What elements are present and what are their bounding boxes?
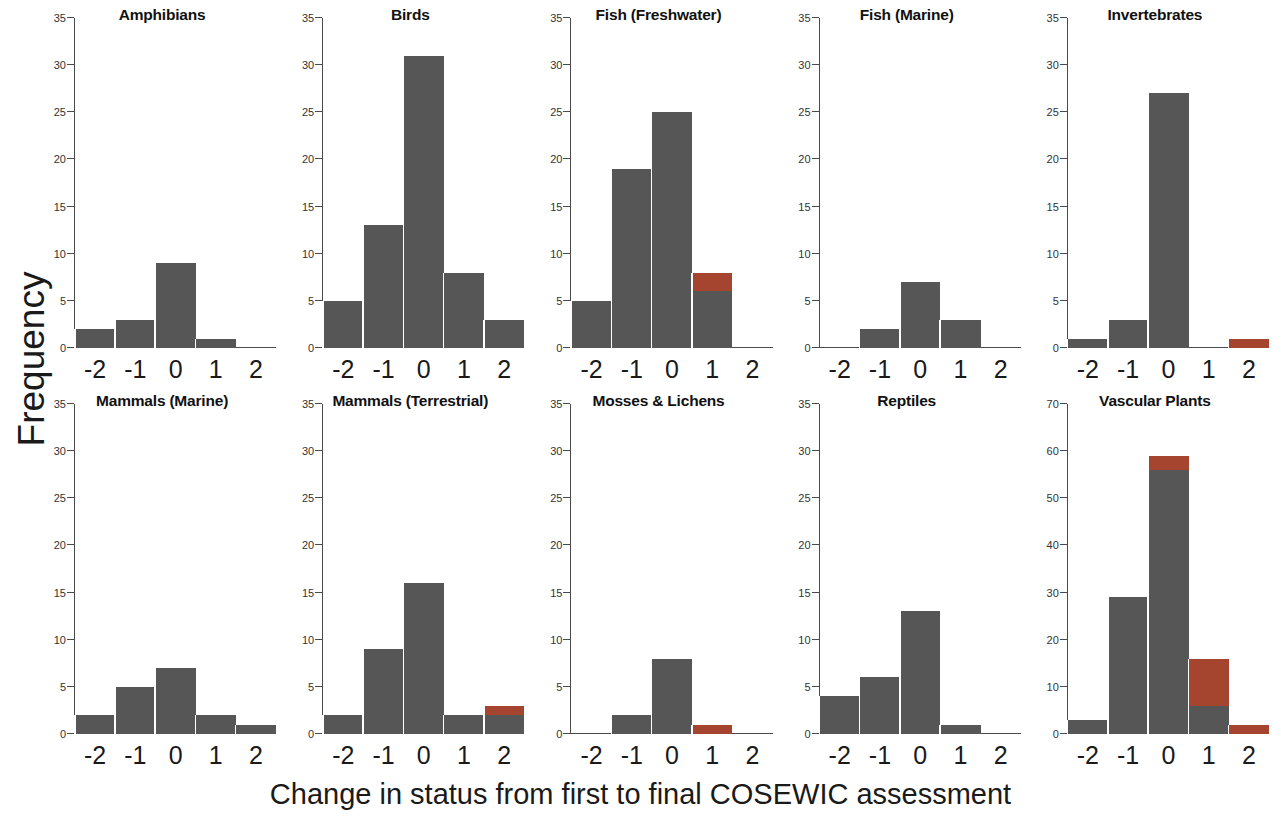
x-tick-label: 1	[444, 355, 484, 384]
y-tick-label: 20	[785, 539, 811, 551]
x-tick-labels: -2-1012	[323, 348, 524, 384]
y-tick-label: 10	[40, 634, 66, 646]
bar-segment-red	[1189, 659, 1229, 706]
y-tick-label: 20	[1033, 634, 1059, 646]
bar-segment-red	[484, 706, 524, 715]
bar[interactable]	[860, 677, 900, 734]
y-tick-label: 10	[288, 248, 314, 260]
bar[interactable]	[155, 263, 195, 348]
bar[interactable]	[612, 169, 652, 348]
y-tick	[812, 450, 819, 451]
bar[interactable]	[75, 329, 115, 348]
y-tick-label: 25	[288, 492, 314, 504]
bar-slot	[732, 404, 772, 734]
bar-segment-gray	[940, 320, 980, 348]
bar[interactable]	[900, 611, 940, 734]
bar[interactable]	[692, 273, 732, 348]
x-tick-label: 1	[196, 355, 236, 384]
bar-segment-gray	[196, 339, 236, 348]
y-tick-label: 15	[40, 587, 66, 599]
bar[interactable]	[196, 339, 236, 348]
bar[interactable]	[860, 329, 900, 348]
bar-segment-gray	[404, 583, 444, 734]
y-tick	[315, 17, 322, 18]
x-tick-label: 1	[692, 741, 732, 770]
bar[interactable]	[652, 659, 692, 734]
bar[interactable]	[652, 112, 692, 348]
y-tick	[67, 300, 74, 301]
bar-segment-gray	[363, 225, 403, 348]
y-tick	[1060, 592, 1067, 593]
bar[interactable]	[484, 320, 524, 348]
bar-slot	[612, 404, 652, 734]
x-axis-title: Change in status from first to final COS…	[0, 778, 1281, 811]
bar-segment-gray	[404, 56, 444, 348]
bar[interactable]	[1108, 597, 1148, 734]
y-tick-label: 5	[536, 295, 562, 307]
panel-reptiles: Reptiles05101520253035-2-1012	[785, 386, 1033, 772]
bar[interactable]	[900, 282, 940, 348]
bar[interactable]	[1068, 339, 1108, 348]
x-tick-label: 2	[1229, 741, 1269, 770]
bar-slot	[1148, 18, 1188, 348]
bar[interactable]	[1108, 320, 1148, 348]
bar[interactable]	[115, 320, 155, 348]
bar[interactable]	[363, 649, 403, 734]
bar[interactable]	[1229, 339, 1269, 348]
bar[interactable]	[323, 301, 363, 348]
bar[interactable]	[1148, 456, 1188, 734]
bars-container	[820, 404, 1021, 734]
x-tick-label: 2	[1229, 355, 1269, 384]
bar[interactable]	[940, 320, 980, 348]
x-tick-label: 0	[900, 355, 940, 384]
y-tick	[67, 592, 74, 593]
y-tick	[812, 733, 819, 734]
x-tick-labels: -2-1012	[1068, 734, 1269, 770]
bar[interactable]	[940, 725, 980, 734]
bar[interactable]	[1068, 720, 1108, 734]
bar[interactable]	[236, 725, 276, 734]
x-tick-label: -2	[323, 355, 363, 384]
bar[interactable]	[1189, 659, 1229, 734]
y-tick	[812, 17, 819, 18]
bar-slot	[981, 404, 1021, 734]
y-tick-label: 5	[40, 681, 66, 693]
x-tick-label: 0	[1148, 355, 1188, 384]
bar[interactable]	[612, 715, 652, 734]
bar[interactable]	[75, 715, 115, 734]
x-tick-label: -1	[115, 355, 155, 384]
bar-segment-gray	[900, 611, 940, 734]
bar[interactable]	[820, 696, 860, 734]
y-tick-label: 30	[288, 59, 314, 71]
y-tick-label: 25	[40, 106, 66, 118]
bar[interactable]	[363, 225, 403, 348]
bar[interactable]	[571, 301, 611, 348]
y-tick-label: 30	[536, 59, 562, 71]
y-tick-label: 60	[1033, 445, 1059, 457]
y-tick-label: 0	[536, 728, 562, 740]
y-tick	[812, 300, 819, 301]
bar[interactable]	[323, 715, 363, 734]
bar[interactable]	[1229, 725, 1269, 734]
y-tick	[67, 733, 74, 734]
x-tick-label: -1	[612, 741, 652, 770]
y-tick-label: 70	[1033, 398, 1059, 410]
bar[interactable]	[196, 715, 236, 734]
bar[interactable]	[692, 725, 732, 734]
bar[interactable]	[444, 715, 484, 734]
bar-slot	[860, 404, 900, 734]
bar[interactable]	[444, 273, 484, 348]
y-tick	[315, 300, 322, 301]
bar[interactable]	[484, 706, 524, 734]
bar[interactable]	[404, 56, 444, 348]
y-tick-label: 35	[785, 398, 811, 410]
bar-segment-gray	[612, 715, 652, 734]
bar[interactable]	[1148, 93, 1188, 348]
bars-container	[1068, 18, 1269, 348]
y-tick-label: 25	[785, 106, 811, 118]
bar-slot	[115, 404, 155, 734]
bar[interactable]	[404, 583, 444, 734]
bar[interactable]	[155, 668, 195, 734]
bar[interactable]	[115, 687, 155, 734]
bar-slot	[1229, 404, 1269, 734]
